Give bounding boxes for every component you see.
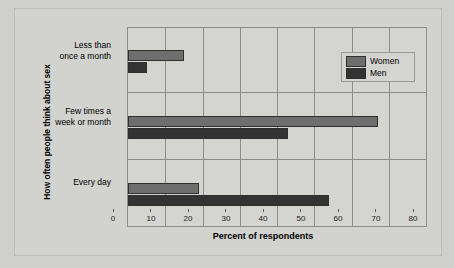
legend-label-men: Men [370, 68, 387, 78]
category-label-less-than-once-a-month: Less than once a month [25, 40, 111, 61]
tick-label-80: 80 [401, 214, 425, 223]
bar-women-less-than-once-a-month [128, 50, 184, 61]
tick-mark-20 [188, 209, 189, 212]
tick-label-40: 40 [251, 214, 275, 223]
tick-mark-70 [375, 209, 376, 212]
gridline-category-divider-2 [128, 159, 426, 160]
category-label-line-2: week or month [25, 117, 111, 128]
y-axis-title: How often people think about sex [42, 32, 52, 232]
x-axis-title: Percent of respondents [113, 231, 413, 241]
bar-men-few-times-a-week-or-month [128, 128, 288, 139]
tick-mark-10 [150, 209, 151, 212]
gridline-category-divider-1 [128, 92, 426, 93]
legend-swatch-women [346, 56, 366, 67]
bar-women-few-times-a-week-or-month [128, 116, 378, 127]
tick-label-60: 60 [326, 214, 350, 223]
category-label-few-times-a-week-or-month: Few times a week or month [25, 106, 111, 127]
tick-label-10: 10 [139, 214, 163, 223]
tick-label-30: 30 [214, 214, 238, 223]
tick-label-50: 50 [289, 214, 313, 223]
plot-area: Women Men [127, 27, 427, 227]
tick-label-20: 20 [176, 214, 200, 223]
tick-mark-40 [263, 209, 264, 212]
category-label-every-day: Every day [25, 177, 111, 188]
chart-legend: Women Men [341, 52, 415, 82]
tick-mark-0 [113, 209, 114, 212]
bar-men-less-than-once-a-month [128, 62, 147, 73]
figure-frame: How often people think about sex Less th… [14, 8, 442, 256]
category-label-line-2: once a month [25, 51, 111, 62]
category-label-line-1: Every day [25, 177, 111, 188]
tick-mark-80 [413, 209, 414, 212]
category-label-line-1: Few times a [25, 106, 111, 117]
bar-women-every-day [128, 183, 199, 194]
tick-label-70: 70 [364, 214, 388, 223]
tick-mark-60 [338, 209, 339, 212]
tick-mark-50 [300, 209, 301, 212]
tick-label-0: 0 [101, 214, 125, 223]
chart-figure: How often people think about sex Less th… [0, 0, 454, 268]
legend-swatch-men [346, 68, 366, 79]
category-label-line-1: Less than [25, 40, 111, 51]
tick-mark-30 [225, 209, 226, 212]
bar-men-every-day [128, 195, 329, 206]
legend-label-women: Women [370, 56, 399, 66]
